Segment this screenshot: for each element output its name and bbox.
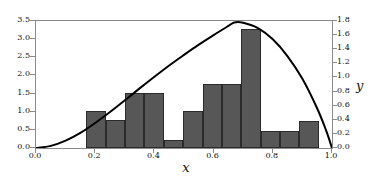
y-axis-left-tick-mark (30, 74, 35, 75)
y-axis-right-tick-mark (332, 34, 337, 35)
y-axis-left-tick-label: 0.0 (2, 143, 30, 151)
y-axis-left-tick-label: 3.0 (2, 34, 30, 42)
x-axis-tick-label: 0.0 (18, 152, 52, 160)
x-axis-tick-mark (272, 148, 273, 153)
y-axis-left-tick-label: 2.5 (2, 52, 30, 60)
y-axis-right-tick-mark (332, 62, 337, 63)
y-axis-left-tick-label: 1.5 (2, 89, 30, 97)
y-axis-left-tick-label: 1.0 (2, 107, 30, 115)
y-axis-right-tick-mark (332, 147, 337, 148)
y-axis-right-tick-mark (332, 119, 337, 120)
x-axis-tick-mark (213, 148, 214, 153)
y-axis-right-title: y (356, 78, 363, 93)
y-axis-left-tick-mark (30, 56, 35, 57)
y-axis-left-tick-label: 3.5 (2, 16, 30, 24)
y-axis-right-tick-label: 1.6 (337, 30, 367, 38)
y-axis-right-tick-label: 1.8 (337, 16, 367, 24)
y-axis-left-tick-label: 2.0 (2, 70, 30, 78)
y-axis-left-tick-mark (30, 93, 35, 94)
y-axis-right-tick-label: 0.6 (337, 101, 367, 109)
x-axis-tick-label: 0.8 (255, 152, 289, 160)
y-axis-left-tick-mark (30, 20, 35, 21)
x-axis-tick-label: 0.2 (77, 152, 111, 160)
plot-area (35, 20, 333, 149)
density-curve (36, 21, 332, 148)
y-axis-right-tick-mark (332, 105, 337, 106)
x-axis-tick-mark (331, 148, 332, 153)
y-axis-right-tick-label: 0.2 (337, 129, 367, 137)
y-axis-right-tick-mark (332, 48, 337, 49)
y-axis-right-tick-mark (332, 20, 337, 21)
y-axis-right-tick-label: 0.4 (337, 115, 367, 123)
y-axis-right-tick-label: 1.4 (337, 44, 367, 52)
y-axis-left-tick-label: 0.5 (2, 125, 30, 133)
y-axis-left-tick-mark (30, 111, 35, 112)
y-axis-right-tick-label: 0.0 (337, 143, 367, 151)
x-axis-tick-label: 0.6 (196, 152, 230, 160)
y-axis-right-tick-mark (332, 133, 337, 134)
x-axis-tick-mark (35, 148, 36, 153)
x-axis-tick-mark (153, 148, 154, 153)
y-axis-left-tick-mark (30, 38, 35, 39)
x-axis-tick-mark (94, 148, 95, 153)
y-axis-left-tick-mark (30, 129, 35, 130)
y-axis-right-tick-label: 1.2 (337, 58, 367, 66)
histogram-figure: 0.00.51.01.52.02.53.03.5 0.00.20.40.60.8… (0, 0, 372, 180)
y-axis-right-tick-mark (332, 91, 337, 92)
x-axis-title: x (0, 160, 372, 175)
y-axis-right-tick-mark (332, 76, 337, 77)
x-axis-tick-label: 0.4 (136, 152, 170, 160)
x-axis-tick-label: 1.0 (314, 152, 348, 160)
